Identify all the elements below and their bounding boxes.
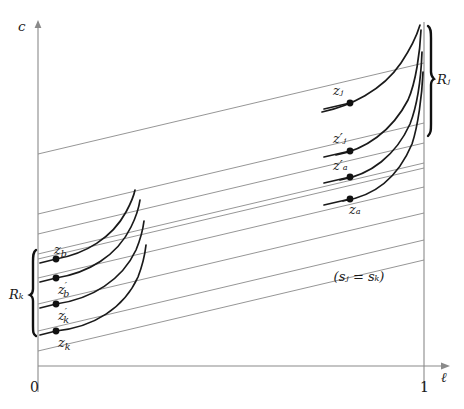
bracket-r-j (428, 26, 434, 136)
tick-z-j-prime (324, 151, 350, 157)
point-marker-z-b-prime[interactable] (53, 275, 60, 282)
diagram-svg: c ℓ 0 1 Rₖ Rⱼ zⱼ z′ⱼ z′ₐ zₐ zb z′b z′k z… (0, 0, 464, 409)
budget-line-7 (38, 213, 424, 304)
point-label-z-j: zⱼ (332, 83, 344, 98)
point-label-z-a: zₐ (348, 202, 361, 217)
point-label-z-k-prime: z′k (57, 306, 69, 325)
tick-z-a (324, 199, 350, 205)
curve-z-a-prime (340, 52, 422, 180)
budget-line-4 (38, 163, 424, 254)
figure-canvas: c ℓ 0 1 Rₖ Rⱼ zⱼ z′ⱼ z′ₐ zₐ zb z′b z′k z… (0, 0, 464, 409)
point-tick-segments (40, 103, 350, 335)
budget-line-8 (38, 240, 424, 331)
origin-label: 0 (30, 379, 39, 395)
equality-annotation: (sⱼ = sₖ) (334, 269, 385, 284)
point-label-z-b-prime: z′b (57, 280, 69, 299)
text-labels-group: c ℓ 0 1 Rₖ Rⱼ zⱼ z′ⱼ z′ₐ zₐ zb z′b z′k z… (8, 18, 451, 395)
point-marker-z-k-prime[interactable] (53, 301, 60, 308)
right-indifference-curves (322, 25, 423, 201)
budget-lines-group (38, 63, 424, 351)
point-marker-z-a-prime[interactable] (347, 174, 354, 181)
budget-line-5 (38, 168, 424, 259)
point-label-z-k: zk (57, 335, 71, 352)
point-marker-z-j[interactable] (347, 100, 354, 107)
point-marker-z-k[interactable] (53, 328, 60, 335)
curve-z-j-prime (336, 30, 421, 155)
tick-z-a-prime (324, 177, 350, 183)
y-axis-label: c (18, 18, 26, 34)
brackets-group (30, 26, 434, 336)
right-tick-label: 1 (420, 379, 429, 395)
point-label-z-j-prime: z′ⱼ (332, 131, 347, 146)
x-axis-label: ℓ (441, 369, 447, 385)
bracket-label-r-j: Rⱼ (436, 72, 451, 87)
curve-z-b-prime (56, 200, 140, 278)
bracket-r-k (30, 250, 36, 336)
point-label-z-b: zb (53, 242, 67, 259)
y-axis-arrow (35, 20, 42, 28)
budget-line-3 (38, 143, 424, 234)
bracket-label-r-k: Rₖ (8, 287, 24, 302)
point-markers-group (53, 100, 354, 335)
curve-z-j (322, 25, 420, 112)
budget-line-1 (38, 63, 424, 154)
point-label-z-a-prime: z′ₐ (332, 158, 348, 173)
point-marker-z-j-prime[interactable] (347, 148, 354, 155)
left-indifference-curves (56, 190, 146, 331)
